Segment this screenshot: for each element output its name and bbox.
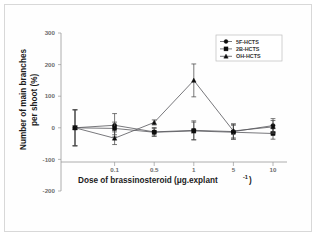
x-axis-ticks: 0.10.51510 bbox=[110, 162, 277, 173]
chart-series-group bbox=[73, 64, 276, 146]
y-tick-label: 300 bbox=[45, 29, 56, 36]
x-axis-title-close: ) bbox=[249, 176, 252, 185]
data-point-triangle bbox=[192, 78, 197, 82]
y-tick-label: -200 bbox=[43, 187, 56, 194]
legend-marker-circle bbox=[224, 40, 228, 44]
chart-series bbox=[73, 64, 276, 146]
y-tick-label: 200 bbox=[45, 61, 56, 68]
series-line bbox=[75, 128, 273, 134]
x-tick-label: 5 bbox=[232, 166, 236, 173]
figure-container: 3002001000-100-200 0.10.51510 5F-HCTS2B-… bbox=[0, 0, 316, 236]
x-tick-label: 1 bbox=[192, 166, 196, 173]
chart-legend: 5F-HCTS2B-HCTSOH-HCTS bbox=[216, 35, 282, 61]
x-axis-title-main: Dose of brassinosteroid (μg.explant bbox=[78, 176, 218, 185]
chart-series bbox=[73, 110, 276, 146]
legend-marker-square bbox=[224, 47, 228, 51]
y-axis-ticks: 3002001000-100-200 bbox=[43, 29, 61, 194]
x-tick-label: 0.1 bbox=[110, 166, 119, 173]
chart-series bbox=[73, 110, 276, 146]
y-axis-title-line1: Number of main branches bbox=[19, 49, 28, 150]
data-point-square bbox=[192, 129, 196, 133]
chart-plot-area: 3002001000-100-200 0.10.51510 5F-HCTS2B-… bbox=[0, 0, 316, 236]
data-point-square bbox=[113, 126, 117, 130]
x-axis-title-exponent: -1 bbox=[243, 174, 248, 180]
y-tick-label: -100 bbox=[43, 156, 56, 163]
data-point-square bbox=[152, 130, 156, 134]
x-tick-label: 0.5 bbox=[150, 166, 159, 173]
y-tick-label: 0 bbox=[52, 124, 56, 131]
legend-label[interactable]: 2B-HCTS bbox=[236, 46, 260, 52]
y-axis-title-line2: per shoot (%) bbox=[30, 73, 39, 126]
x-tick-label: 10 bbox=[270, 166, 277, 173]
series-line bbox=[75, 80, 273, 138]
line-chart-svg: 3002001000-100-200 0.10.51510 5F-HCTS2B-… bbox=[0, 0, 316, 236]
legend-label[interactable]: OH-HCTS bbox=[236, 53, 261, 59]
x-axis-title: Dose of brassinosteroid (μg.explant -1 ) bbox=[78, 174, 252, 185]
legend-label[interactable]: 5F-HCTS bbox=[236, 39, 259, 45]
y-tick-label: 100 bbox=[45, 92, 56, 99]
y-axis-title: Number of main branches per shoot (%) bbox=[19, 49, 39, 150]
